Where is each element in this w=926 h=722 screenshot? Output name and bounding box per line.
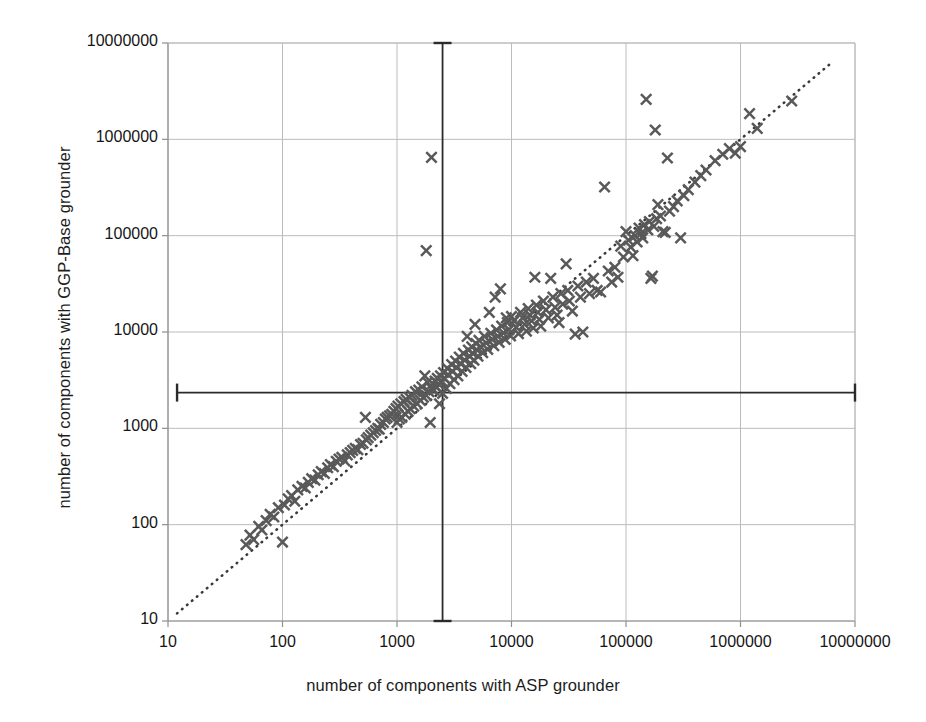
- y-axis-title: number of components with GGP-Base groun…: [55, 68, 74, 588]
- y-tick-label-6: 10000000: [87, 32, 158, 50]
- plot-canvas: [0, 0, 926, 722]
- y-tick-label-3: 10000: [114, 321, 159, 339]
- y-tick-label-5: 1000000: [96, 128, 158, 146]
- x-tick-label-6: 10000000: [775, 633, 926, 651]
- y-tick-label-4: 100000: [105, 225, 158, 243]
- x-axis-title: number of components with ASP grounder: [0, 676, 926, 695]
- scatter-plot-figure: number of components with ASP grounder n…: [0, 0, 926, 722]
- y-tick-label-2: 1000: [122, 417, 158, 435]
- y-tick-label-1: 100: [131, 514, 158, 532]
- y-tick-label-0: 10: [140, 610, 158, 628]
